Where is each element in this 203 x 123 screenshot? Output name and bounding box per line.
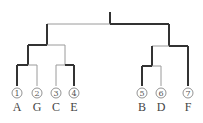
seed-number: 6 (158, 89, 163, 98)
team-name: A (13, 100, 22, 114)
seed-number: 3 (53, 89, 58, 98)
seed-number: 7 (185, 89, 190, 98)
seed-number: 5 (139, 89, 144, 98)
seed-badge: 3 (51, 88, 61, 98)
seed-badge: 5 (137, 88, 147, 98)
team-name: B (138, 100, 146, 114)
seed-number: 2 (34, 89, 39, 98)
seed-badge: 2 (32, 88, 42, 98)
seed-badge: 7 (183, 88, 193, 98)
team-name: C (52, 100, 60, 114)
seed-number: 4 (71, 89, 76, 98)
team-name: D (157, 100, 166, 114)
tournament-bracket: 1 2 3 4 5 6 7 A G C E B D F (0, 0, 203, 123)
seed-badge: 6 (156, 88, 166, 98)
team-name: G (33, 100, 42, 114)
seed-badge: 1 (12, 88, 22, 98)
team-name: F (185, 100, 192, 114)
seed-badge: 4 (69, 88, 79, 98)
seed-number: 1 (14, 89, 19, 98)
team-name: E (70, 100, 77, 114)
